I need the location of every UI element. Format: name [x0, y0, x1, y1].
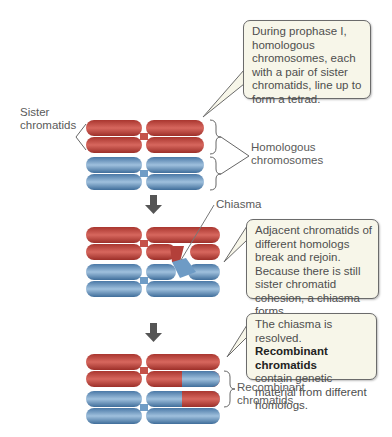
- recombinant-bold-text: Recombinant chromatids: [255, 345, 328, 371]
- blue-homolog: [86, 157, 204, 190]
- prophase-callout-text: During prophase I, homologous chromosome…: [252, 25, 361, 105]
- label-line: chromatids: [20, 119, 76, 132]
- prophase-callout: During prophase I, homologous chromosome…: [243, 20, 371, 99]
- label-line: chromatids: [237, 394, 305, 407]
- recombinant-stage: [86, 354, 235, 424]
- tetrad-stage: [76, 120, 249, 190]
- sister-chromatids-label: Sister chromatids: [20, 106, 76, 132]
- chiasma-callout: Adjacent chromatids of different homolog…: [246, 219, 379, 299]
- label-line: Homologous: [251, 141, 323, 154]
- chiasma-label: Chiasma: [216, 198, 261, 211]
- label-line: chromosomes: [251, 154, 323, 167]
- sister-chromatids-pointer: [76, 124, 86, 150]
- homologous-chromosomes-label: Homologous chromosomes: [251, 141, 323, 167]
- label-line: Recombinant: [237, 381, 305, 394]
- label-line: Sister: [20, 106, 76, 119]
- resolved-text: The chiasma is resolved.: [255, 318, 332, 344]
- down-arrow-icon: [145, 195, 162, 214]
- recombinant-bracket: [224, 371, 235, 407]
- recombinant-chromatids-label: Recombinant chromatids: [237, 381, 305, 407]
- chiasma-stage: [86, 205, 220, 297]
- recombinant-callout: The chiasma is resolved. Recombinant chr…: [246, 313, 377, 380]
- red-homolog: [86, 120, 204, 153]
- down-arrow-icon: [145, 323, 162, 342]
- chiasma-callout-text: Adjacent chromatids of different homolog…: [255, 224, 372, 317]
- homologous-pointer: [221, 137, 249, 174]
